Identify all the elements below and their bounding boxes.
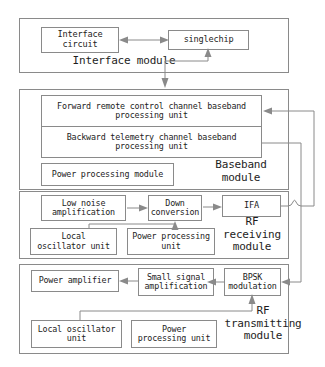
diagram-canvas: Interface circuit singlechip Interface m… — [0, 0, 325, 367]
box-low-noise-amplification: Low noise amplification — [41, 195, 126, 221]
box-rx-power: Power processing unit — [127, 228, 215, 255]
box-forward-unit: Forward remote control channel baseband … — [41, 95, 262, 127]
box-baseband-power: Power processing module — [41, 163, 174, 186]
caption-rf-receiving-module: RF receiving module — [218, 216, 286, 254]
caption-baseband-module: Baseband module — [200, 159, 282, 184]
caption-rf-transmitting-module: RF transmitting module — [210, 305, 316, 343]
box-tx-local-oscillator: Local oscillator unit — [31, 320, 122, 348]
box-tx-power: Power processing unit — [131, 320, 217, 348]
box-down-conversion: Down conversion — [148, 195, 202, 221]
box-power-amplifier: Power amplifier — [31, 270, 119, 292]
box-ifa: IFA — [222, 195, 281, 217]
box-singlechip: singlechip — [168, 30, 249, 50]
caption-interface-module: Interface module — [44, 55, 204, 68]
box-backward-unit: Backward telemetry channel baseband proc… — [41, 126, 262, 158]
box-bpsk-modulation: BPSK modulation — [224, 268, 281, 296]
box-small-signal-amplification: Small signal amplification — [138, 268, 214, 296]
box-interface-circuit: Interface circuit — [41, 27, 119, 53]
box-rx-local-oscillator: Local oscillator unit — [30, 228, 117, 255]
